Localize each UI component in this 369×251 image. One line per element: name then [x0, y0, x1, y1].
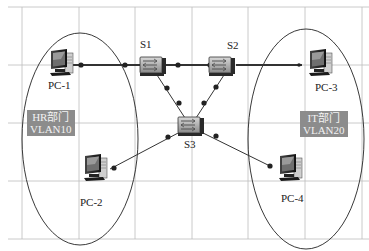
switch-s2-label: S2 — [227, 39, 239, 51]
it-vlan-ellipse — [248, 29, 364, 249]
pc-1-label: PC-1 — [48, 79, 71, 91]
switch-s3-label: S3 — [184, 138, 196, 150]
pc-2-icon — [84, 154, 107, 181]
link-s2-s3 — [196, 75, 224, 118]
hr-vlan-label: HR部门 VLAN10 — [27, 110, 75, 136]
switch-s2-icon — [209, 57, 235, 76]
hr-vlan-id: VLAN10 — [30, 123, 72, 135]
pc-2-label: PC-2 — [80, 196, 103, 208]
pc-4-icon — [279, 154, 302, 181]
link-s3-pc4 — [201, 132, 272, 167]
it-vlan-id: VLAN20 — [303, 124, 345, 136]
it-vlan-label: IT部门 VLAN20 — [300, 111, 348, 137]
switch-s3-icon — [178, 117, 204, 136]
pc-1-icon — [50, 49, 73, 76]
switch-s1-label: S1 — [140, 38, 152, 50]
pc-3-label: PC-3 — [315, 81, 338, 93]
pc-3-icon — [309, 49, 332, 76]
link-s1-s3 — [157, 75, 185, 118]
pc-4-label: PC-4 — [281, 192, 304, 204]
hr-group-name: HR部门 — [30, 111, 72, 123]
network-diagram: S1 S2 S3 PC-1 PC-2 PC-3 PC-4 HR部门 VLAN10… — [0, 0, 369, 251]
switch-s1-icon — [140, 57, 166, 76]
port-dots — [78, 62, 300, 170]
it-group-name: IT部门 — [303, 112, 345, 124]
